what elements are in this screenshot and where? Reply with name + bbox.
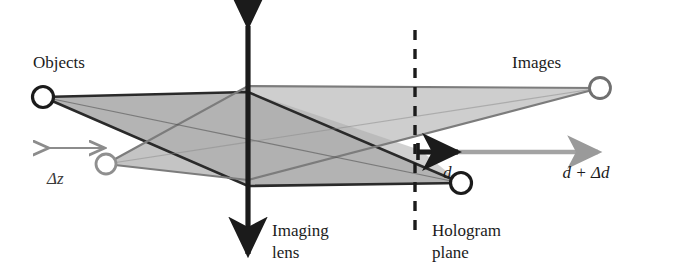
label-hologram-plane-line1: Hologram — [432, 221, 501, 240]
label-imaging-lens-line1: Imaging — [272, 221, 329, 240]
label-objects: Objects — [33, 53, 85, 72]
image-at-hologram-marker — [451, 173, 472, 194]
label-imaging-lens-line2: lens — [272, 243, 299, 262]
label-hologram-plane-line2: plane — [432, 243, 469, 262]
object-far-marker — [96, 154, 116, 174]
label-d-plus-delta-d: d + Δd — [563, 163, 610, 182]
object-near-marker — [33, 87, 54, 108]
diagram-canvas: Objects Images Imaging lens Hologram pla… — [0, 0, 682, 278]
label-d: d — [443, 163, 452, 182]
label-delta-z: Δz — [46, 169, 64, 188]
optics-ray-diagram: Objects Images Imaging lens Hologram pla… — [0, 0, 682, 278]
label-images: Images — [512, 53, 561, 72]
image-shifted-marker — [590, 78, 611, 99]
